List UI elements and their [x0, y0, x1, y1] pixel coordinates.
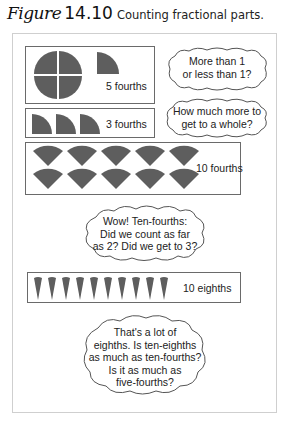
- bubble-line: get to a whole?: [163, 118, 271, 131]
- bubble-line: eighths. Is ten-eighths: [80, 339, 210, 352]
- panel-label: 5 fourths: [106, 80, 147, 92]
- eighth-wedges-icon: [34, 276, 174, 302]
- panel-five-fourths: 5 fourths: [25, 46, 155, 104]
- panel-label: 10 fourths: [196, 162, 243, 174]
- thought-bubble-eighths: That's a lot of eighths. Is ten-eighths …: [80, 312, 210, 397]
- thought-bubble-more-or-less: More than 1 or less than 1?: [163, 46, 271, 92]
- bubble-line: Wow! Ten-fourths:: [80, 215, 210, 228]
- figure-caption: Counting fractional parts.: [117, 8, 264, 22]
- panel-label: 3 fourths: [106, 118, 147, 130]
- bubble-line: as 2? Did we get to 3?: [80, 240, 210, 253]
- bubble-line: as much as ten-fourths?: [80, 351, 210, 364]
- figure-number: 14.10: [64, 3, 113, 23]
- bubble-line: Did we count as far: [80, 228, 210, 241]
- bubble-line: That's a lot of: [80, 326, 210, 339]
- panel-label: 10 eighths: [183, 282, 231, 294]
- quarter-circle-icon: [31, 113, 53, 135]
- bubble-line: How much more to: [163, 105, 271, 118]
- thought-bubble-ten-fourths: Wow! Ten-fourths: Did we count as far as…: [80, 203, 210, 263]
- thought-bubble-how-much-more: How much more to get to a whole?: [163, 97, 271, 139]
- quarter-circle-icon: [96, 51, 120, 75]
- quarter-wedges-icon: [31, 145, 206, 193]
- bubble-line: or less than 1?: [163, 68, 271, 81]
- bubble-line: More than 1: [163, 55, 271, 68]
- panel-three-fourths: 3 fourths: [25, 108, 155, 138]
- bubble-line: five-fourths?: [80, 376, 210, 389]
- figure-label: Figure: [7, 3, 61, 23]
- whole-circle-icon: [33, 50, 83, 100]
- quarter-circle-icon: [55, 113, 77, 135]
- panel-ten-eighths: 10 eighths: [27, 272, 241, 303]
- panel-ten-fourths: 10 fourths: [25, 142, 241, 195]
- bubble-line: Is it as much as: [80, 364, 210, 377]
- quarter-circle-icon: [79, 113, 101, 135]
- figure-title: Figure14.10Counting fractional parts.: [7, 3, 264, 23]
